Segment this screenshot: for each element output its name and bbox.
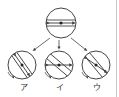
option-label-u: ウ bbox=[93, 84, 101, 92]
center-dot bbox=[59, 21, 62, 24]
top-disk bbox=[44, 8, 78, 38]
right-border bbox=[116, 0, 117, 97]
option-label-i: イ bbox=[56, 84, 64, 92]
option-a-disk bbox=[8, 49, 36, 82]
option-i-disk bbox=[43, 51, 74, 79]
arrow-to-u-icon bbox=[71, 38, 86, 50]
option-u-disk bbox=[82, 49, 110, 80]
option-label-a: ア bbox=[20, 84, 28, 92]
arrow-to-a-icon bbox=[34, 38, 50, 50]
